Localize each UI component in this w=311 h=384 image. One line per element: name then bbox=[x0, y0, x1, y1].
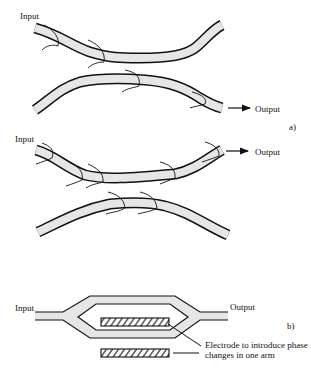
output-label-b: Output bbox=[230, 302, 255, 312]
electrode-upper bbox=[101, 318, 169, 326]
input-label-b: Input bbox=[15, 303, 34, 313]
fused-coupler-a2 bbox=[36, 142, 248, 235]
coupler-diagram bbox=[0, 0, 311, 384]
panel-label-a: a) bbox=[289, 122, 296, 132]
fused-coupler-a1 bbox=[35, 25, 250, 110]
mach-zehnder-b bbox=[35, 296, 228, 357]
panel-label-b: b) bbox=[287, 321, 295, 331]
electrode-note: Electrode to introduce phase changes in … bbox=[205, 340, 311, 360]
electrode-lower bbox=[101, 349, 169, 357]
input-label-a2: Input bbox=[15, 134, 34, 144]
output-label-a1: Output bbox=[255, 104, 280, 114]
output-label-a2: Output bbox=[255, 147, 280, 157]
input-label-a1: Input bbox=[20, 11, 39, 21]
